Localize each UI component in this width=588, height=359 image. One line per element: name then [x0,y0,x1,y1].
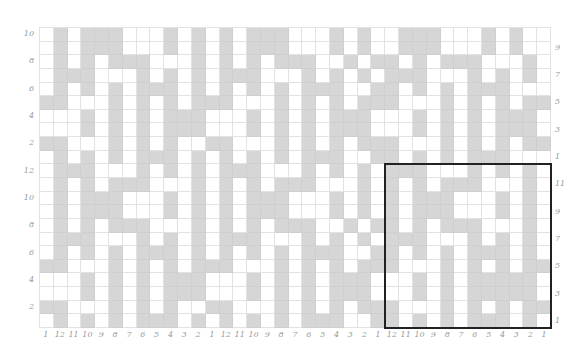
grid-cell[interactable] [178,28,192,42]
grid-cell[interactable] [178,260,192,274]
grid-cell[interactable] [233,205,247,219]
grid-cell[interactable] [399,273,413,287]
grid-cell[interactable] [441,314,455,328]
grid-cell[interactable] [178,273,192,287]
grid-cell[interactable] [344,301,358,315]
grid-cell[interactable] [496,28,510,42]
grid-cell[interactable] [385,55,399,69]
grid-cell[interactable] [358,123,372,137]
grid-cell[interactable] [316,123,330,137]
grid-cell[interactable] [302,164,316,178]
grid-cell[interactable] [81,28,95,42]
grid-cell[interactable] [261,178,275,192]
grid-cell[interactable] [496,219,510,233]
grid-cell[interactable] [95,137,109,151]
grid-cell[interactable] [247,192,261,206]
grid-cell[interactable] [523,246,537,260]
grid-cell[interactable] [81,55,95,69]
grid-cell[interactable] [178,42,192,56]
grid-cell[interactable] [454,273,468,287]
grid-cell[interactable] [206,314,220,328]
grid-cell[interactable] [537,219,551,233]
grid-cell[interactable] [192,28,206,42]
grid-cell[interactable] [413,205,427,219]
grid-cell[interactable] [523,83,537,97]
grid-cell[interactable] [427,55,441,69]
grid-cell[interactable] [123,123,137,137]
grid-cell[interactable] [482,301,496,315]
grid-cell[interactable] [123,137,137,151]
grid-cell[interactable] [95,287,109,301]
grid-cell[interactable] [261,287,275,301]
grid-cell[interactable] [468,83,482,97]
grid-cell[interactable] [316,273,330,287]
grid-cell[interactable] [164,314,178,328]
grid-cell[interactable] [233,192,247,206]
grid-cell[interactable] [537,287,551,301]
grid-cell[interactable] [427,151,441,165]
grid-cell[interactable] [137,137,151,151]
grid-cell[interactable] [206,301,220,315]
grid-cell[interactable] [358,205,372,219]
grid-cell[interactable] [441,205,455,219]
grid-cell[interactable] [123,287,137,301]
grid-cell[interactable] [441,301,455,315]
grid-cell[interactable] [413,110,427,124]
grid-cell[interactable] [427,28,441,42]
grid-cell[interactable] [316,246,330,260]
grid-cell[interactable] [330,55,344,69]
grid-cell[interactable] [482,246,496,260]
grid-cell[interactable] [123,83,137,97]
grid-cell[interactable] [427,314,441,328]
grid-cell[interactable] [233,246,247,260]
grid-cell[interactable] [358,83,372,97]
grid-cell[interactable] [358,301,372,315]
grid-cell[interactable] [247,28,261,42]
grid-cell[interactable] [510,273,524,287]
grid-cell[interactable] [510,96,524,110]
grid-cell[interactable] [468,192,482,206]
grid-cell[interactable] [454,205,468,219]
grid-cell[interactable] [109,55,123,69]
grid-cell[interactable] [54,83,68,97]
grid-cell[interactable] [510,314,524,328]
grid-cell[interactable] [385,110,399,124]
grid-cell[interactable] [496,96,510,110]
grid-cell[interactable] [68,110,82,124]
grid-cell[interactable] [385,28,399,42]
grid-cell[interactable] [399,137,413,151]
grid-cell[interactable] [427,260,441,274]
grid-cell[interactable] [482,28,496,42]
grid-cell[interactable] [54,55,68,69]
grid-cell[interactable] [137,233,151,247]
grid-cell[interactable] [137,314,151,328]
grid-cell[interactable] [454,151,468,165]
grid-cell[interactable] [109,287,123,301]
grid-cell[interactable] [40,96,54,110]
grid-cell[interactable] [344,110,358,124]
grid-cell[interactable] [482,233,496,247]
grid-cell[interactable] [316,69,330,83]
grid-cell[interactable] [95,28,109,42]
grid-cell[interactable] [247,55,261,69]
grid-cell[interactable] [109,83,123,97]
grid-cell[interactable] [95,96,109,110]
grid-cell[interactable] [54,273,68,287]
grid-cell[interactable] [68,83,82,97]
grid-cell[interactable] [427,301,441,315]
grid-cell[interactable] [523,55,537,69]
grid-cell[interactable] [523,110,537,124]
grid-cell[interactable] [206,246,220,260]
grid-cell[interactable] [510,123,524,137]
grid-cell[interactable] [399,246,413,260]
grid-cell[interactable] [233,28,247,42]
grid-cell[interactable] [178,192,192,206]
grid-cell[interactable] [233,314,247,328]
grid-cell[interactable] [261,301,275,315]
grid-cell[interactable] [206,28,220,42]
grid-cell[interactable] [109,137,123,151]
grid-cell[interactable] [261,123,275,137]
grid-cell[interactable] [68,137,82,151]
grid-cell[interactable] [150,301,164,315]
grid-cell[interactable] [164,233,178,247]
